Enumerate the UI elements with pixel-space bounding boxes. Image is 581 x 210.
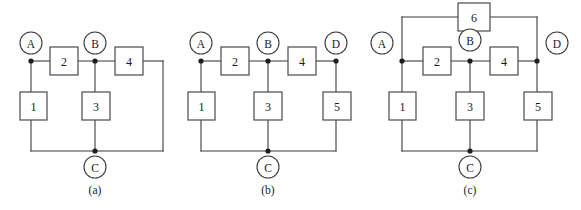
component-label-3: 3	[265, 100, 271, 114]
component-label-3: 3	[467, 100, 473, 114]
junction-dot-B	[92, 58, 97, 63]
junction-dot-A	[399, 58, 404, 63]
component-label-1: 1	[199, 100, 205, 114]
junction-dot-C	[467, 148, 472, 153]
component-label-2: 2	[232, 55, 238, 69]
component-label-4: 4	[501, 55, 507, 69]
terminal-a-C[interactable]: C	[84, 148, 106, 178]
terminal-a-B[interactable]: B	[84, 32, 106, 64]
terminal-c-B[interactable]: B	[459, 29, 481, 64]
terminal-b-B[interactable]: B	[257, 32, 279, 64]
component-label-1: 1	[400, 100, 406, 114]
diagram-canvas: 1234ABC(a)12345ABDC(b)123456ABDC(c)	[0, 0, 581, 210]
component-label-5: 5	[334, 100, 340, 114]
component-c-3[interactable]: 3	[456, 92, 484, 120]
component-label-1: 1	[31, 100, 37, 114]
terminal-label-C: C	[264, 162, 272, 174]
terminal-label-D: D	[332, 38, 340, 50]
panel-caption-c: (c)	[464, 184, 477, 197]
circuit-panel-a: 1234ABC(a)	[20, 32, 163, 197]
component-label-2: 2	[61, 55, 67, 69]
junction-dot-B	[265, 58, 270, 63]
component-a-3[interactable]: 3	[82, 92, 110, 120]
component-a-4[interactable]: 4	[115, 47, 143, 75]
component-a-2[interactable]: 2	[50, 47, 78, 75]
component-label-4: 4	[126, 55, 132, 69]
component-label-2: 2	[434, 55, 440, 69]
component-c-1[interactable]: 1	[389, 92, 416, 120]
component-c-6[interactable]: 6	[458, 3, 490, 31]
component-label-5: 5	[535, 100, 541, 114]
terminal-label-C: C	[91, 162, 99, 174]
component-b-3[interactable]: 3	[254, 92, 282, 120]
junction-dot-D	[333, 58, 338, 63]
component-label-3: 3	[93, 100, 99, 114]
component-label-4: 4	[299, 55, 305, 69]
component-c-4[interactable]: 4	[490, 47, 518, 75]
terminal-label-B: B	[91, 38, 99, 50]
terminal-c-C[interactable]: C	[459, 148, 481, 178]
component-label-6: 6	[471, 11, 477, 25]
panel-caption-b: (b)	[261, 184, 275, 197]
terminal-c-D[interactable]: D	[534, 32, 568, 64]
terminal-a-A[interactable]: A	[20, 32, 42, 64]
terminal-c-A[interactable]: A	[371, 32, 405, 64]
component-b-4[interactable]: 4	[288, 47, 316, 75]
terminal-label-B: B	[264, 38, 272, 50]
circuit-panel-c: 123456ABDC(c)	[371, 3, 568, 197]
terminal-b-D[interactable]: D	[325, 32, 347, 64]
terminal-label-A: A	[197, 38, 206, 50]
junction-dot-B	[467, 58, 472, 63]
panel-caption-a: (a)	[89, 184, 102, 197]
junction-dot-A	[198, 58, 203, 63]
terminal-label-D: D	[553, 38, 561, 50]
terminal-label-A: A	[378, 38, 387, 50]
component-b-2[interactable]: 2	[221, 47, 249, 75]
junction-dot-C	[265, 148, 270, 153]
component-a-1[interactable]: 1	[20, 92, 47, 120]
component-c-2[interactable]: 2	[423, 47, 451, 75]
circuit-panel-b: 12345ABDC(b)	[188, 32, 351, 197]
junction-dot-D	[534, 58, 539, 63]
component-b-5[interactable]: 5	[323, 92, 351, 120]
terminal-label-A: A	[27, 38, 36, 50]
component-b-1[interactable]: 1	[188, 92, 215, 120]
terminal-label-B: B	[466, 35, 474, 47]
circuit-diagram-figure: 1234ABC(a)12345ABDC(b)123456ABDC(c)	[0, 0, 581, 210]
terminal-b-C[interactable]: C	[257, 148, 279, 178]
terminal-label-C: C	[466, 162, 474, 174]
component-c-5[interactable]: 5	[524, 92, 552, 120]
terminal-b-A[interactable]: A	[190, 32, 212, 64]
junction-dot-A	[28, 58, 33, 63]
junction-dot-C	[92, 148, 97, 153]
